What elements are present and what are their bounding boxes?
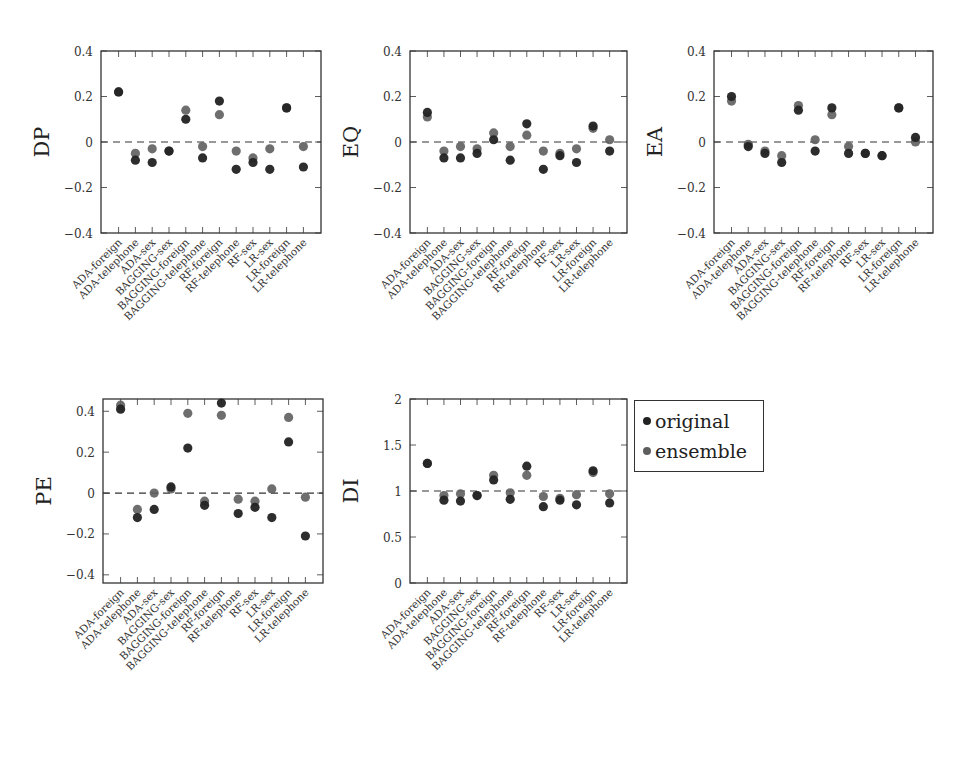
ensemble-point [234,495,243,504]
legend: original ensemble [634,400,764,472]
original-point [133,513,142,522]
original-point [148,158,157,167]
original-point [166,482,175,491]
original-point [472,491,481,500]
ensemble-point [605,489,614,498]
charts-svg: −0.4−0.200.20.4DPADA-foreignADA-telephon… [0,0,979,762]
ensemble-point [148,144,157,153]
original-point [250,503,259,512]
original-point [522,119,531,128]
original-point [267,513,276,522]
y-tick-label: −0.4 [373,227,403,241]
original-point [555,151,564,160]
y-tick-label: 0 [698,136,706,150]
original-point [811,147,820,156]
ensemble-point [232,147,241,156]
ensemble-point [605,135,614,144]
original-point [572,500,581,509]
original-point [827,103,836,112]
original-point [861,149,870,158]
ensemble-point [217,411,226,420]
original-point [284,437,293,446]
y-tick-label: 0 [394,136,402,150]
ensemble-point [811,135,820,144]
chart-pe: −0.4−0.200.20.4PEADA-foreignADA-telephon… [32,398,323,672]
y-tick-label: 0.4 [74,45,93,59]
chart-di: 00.511.52DIADA-foreignADA-telephoneADA-s… [339,393,627,673]
original-point [506,156,515,165]
ensemble-point [301,493,310,502]
y-axis-label: EA [643,126,667,157]
y-tick-label: 0.2 [74,90,93,104]
ensemble-point [572,144,581,153]
original-point [215,96,224,105]
chart-eq: −0.4−0.200.20.4EQADA-foreignADA-telephon… [339,45,627,323]
ensemble-point [181,106,190,115]
chart-ea: −0.4−0.200.20.4EAADA-foreignADA-telephon… [643,45,933,323]
original-point [588,121,597,130]
ensemble-point [215,110,224,119]
y-tick-label: 0.4 [687,45,706,59]
original-point [727,92,736,101]
ensemble-point [133,505,142,514]
ensemble-point [506,142,515,151]
original-point [489,475,498,484]
ensemble-point [522,131,531,140]
ensemble-point [150,488,159,497]
y-tick-label: −0.4 [677,227,707,241]
original-point [439,153,448,162]
original-point [844,149,853,158]
original-point [539,502,548,511]
original-point [131,156,140,165]
original-point [760,149,769,158]
ensemble-point [183,409,192,418]
y-tick-label: 0 [87,487,95,501]
y-axis-label: DP [30,127,54,158]
original-point [894,103,903,112]
y-tick-label: 0.4 [76,405,95,419]
original-point [301,531,310,540]
original-point [794,106,803,115]
original-point [232,165,241,174]
original-point [200,501,209,510]
original-point [555,496,564,505]
original-point [234,509,243,518]
ensemble-point [572,490,581,499]
original-point [456,153,465,162]
y-tick-label: −0.2 [677,181,706,195]
ensemble-point [539,492,548,501]
y-axis-label: EQ [339,126,363,159]
y-axis-label: PE [32,476,56,505]
original-point [439,496,448,505]
original-point [116,405,125,414]
original-point [506,495,515,504]
ensemble-point [299,142,308,151]
legend-label: original [655,410,729,432]
original-point [744,142,753,151]
original-point [588,466,597,475]
original-point [217,398,226,407]
plot-frame [103,399,323,583]
original-point [456,497,465,506]
original-point [248,158,257,167]
original-point [605,147,614,156]
original-point [114,87,123,96]
original-point [877,151,886,160]
ensemble-point [265,144,274,153]
original-point [423,108,432,117]
original-point [539,165,548,174]
legend-item-original: original [643,406,763,436]
ensemble-point [456,142,465,151]
y-tick-label: 0.4 [383,45,402,59]
y-tick-label: 0 [394,577,402,591]
y-tick-label: 1 [394,485,402,499]
original-point [423,459,432,468]
y-tick-label: 1.5 [383,439,402,453]
y-tick-label: −0.2 [66,527,95,541]
original-point [572,158,581,167]
y-tick-label: 2 [394,393,402,407]
original-point [777,158,786,167]
original-point [150,505,159,514]
y-axis-label: DI [339,478,363,503]
original-point [164,147,173,156]
